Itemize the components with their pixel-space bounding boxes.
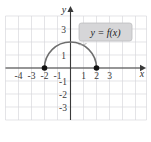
x-tick-label: -4	[15, 71, 23, 81]
y-tick-label: -3	[59, 103, 67, 113]
curve-endpoint-left	[42, 65, 48, 71]
y-tick-label: -2	[59, 90, 67, 100]
figure-background	[0, 0, 151, 142]
x-tick-label: -3	[28, 71, 36, 81]
curve-endpoint-right	[94, 65, 100, 71]
x-tick-label: 2	[94, 71, 99, 81]
y-tick-label: 1	[61, 51, 66, 61]
coordinate-plane-svg: x y -4 -3 -2 -1 1 2 3 3 1 -1 -2 -3	[0, 0, 151, 142]
y-tick-label: 3	[61, 25, 66, 35]
y-axis-label: y	[61, 4, 67, 15]
x-tick-label: 3	[107, 71, 112, 81]
x-tick-label: 1	[81, 71, 86, 81]
function-label-text: y = f(x)	[89, 27, 121, 39]
x-axis-label: x	[139, 68, 145, 79]
y-tick-label: -1	[59, 77, 67, 87]
function-label-box: y = f(x)	[79, 23, 132, 41]
graph-figure: x y -4 -3 -2 -1 1 2 3 3 1 -1 -2 -3	[0, 0, 151, 142]
x-tick-label: -2	[41, 71, 49, 81]
